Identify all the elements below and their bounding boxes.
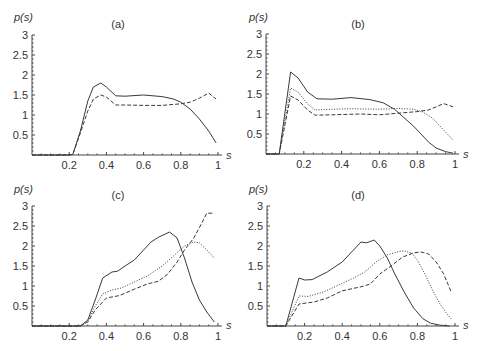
x-tick-label: 0.8: [173, 159, 188, 171]
y-axis-label: p(s): [248, 183, 268, 195]
y-tick-label: 3: [256, 28, 262, 40]
y-tick-label: 1: [22, 280, 28, 292]
curve-solid: [32, 83, 216, 155]
panel-c: p(s) (c) s 0.20.40.60.810.511.522.53: [13, 183, 232, 342]
panel-title: (d): [351, 189, 364, 201]
panel-title: (a): [111, 18, 124, 30]
y-tick-label: 2: [256, 68, 262, 80]
curve-solid: [267, 240, 449, 326]
y-tick-label: 1.5: [13, 89, 28, 101]
curve-dotted: [267, 251, 451, 326]
y-tick-label: 0.5: [247, 128, 262, 140]
curve-dotted: [32, 242, 214, 326]
x-tick-label: 0.2: [296, 158, 311, 170]
curve-dashed: [266, 96, 453, 154]
x-tick-label: 1: [452, 330, 458, 342]
x-axis-label: s: [226, 319, 232, 331]
x-tick-label: 0.8: [410, 330, 425, 342]
x-tick-label: 1: [215, 330, 221, 342]
x-tick-label: 0.2: [62, 330, 77, 342]
y-tick-label: 3: [22, 200, 28, 212]
y-axis-label: p(s): [13, 11, 33, 23]
x-axis-label: s: [226, 149, 232, 161]
x-tick-label: 0.8: [173, 330, 188, 342]
curve-dashed: [32, 93, 216, 155]
y-tick-label: 1.5: [13, 260, 28, 272]
y-tick-label: 1: [256, 108, 262, 120]
x-tick-label: 1: [452, 158, 458, 170]
panel-d: p(s) (d) s 0.20.40.60.810.511.522.53: [248, 183, 469, 342]
y-tick-label: 1.5: [248, 260, 263, 272]
curve-dashed: [267, 252, 451, 326]
y-tick-label: 0.5: [248, 300, 263, 312]
curve-dotted: [266, 88, 453, 154]
y-tick-label: 2: [22, 69, 28, 81]
x-tick-label: 0.2: [297, 330, 312, 342]
y-tick-label: 0.5: [13, 300, 28, 312]
curve-dashed: [32, 213, 214, 326]
panel-b: p(s) (b) s 0.20.40.60.810.511.522.53: [247, 11, 469, 170]
x-tick-label: 0.8: [410, 158, 425, 170]
y-tick-label: 2.5: [13, 49, 28, 61]
y-tick-label: 2: [22, 240, 28, 252]
y-tick-label: 1.5: [247, 88, 262, 100]
x-tick-label: 0.6: [136, 330, 151, 342]
y-tick-label: 2: [257, 240, 263, 252]
y-tick-label: 0.5: [13, 129, 28, 141]
y-tick-label: 2.5: [247, 48, 262, 60]
x-tick-label: 0.6: [372, 330, 387, 342]
x-tick-label: 0.4: [99, 159, 114, 171]
x-tick-label: 1: [215, 159, 221, 171]
panel-title: (b): [351, 18, 364, 30]
x-axis-label: s: [463, 319, 469, 331]
panel-title: (c): [112, 189, 125, 201]
y-tick-label: 1: [22, 109, 28, 121]
y-tick-label: 3: [22, 29, 28, 41]
y-tick-label: 1: [257, 280, 263, 292]
y-axis-label: p(s): [13, 183, 33, 195]
y-tick-label: 2.5: [248, 220, 263, 232]
panel-a: p(s) (a) s 0.20.40.60.810.511.522.53: [13, 11, 232, 171]
x-axis-label: s: [463, 148, 469, 160]
figure-four-panel-chart: p(s) (a) s 0.20.40.60.810.511.522.53 p(s…: [0, 0, 480, 351]
x-tick-label: 0.6: [372, 158, 387, 170]
y-tick-label: 2.5: [13, 220, 28, 232]
y-axis-label: p(s): [248, 11, 268, 23]
x-tick-label: 0.6: [136, 159, 151, 171]
x-tick-label: 0.4: [334, 158, 349, 170]
x-tick-label: 0.4: [335, 330, 350, 342]
y-tick-label: 3: [257, 200, 263, 212]
x-tick-label: 0.2: [62, 159, 77, 171]
x-tick-label: 0.4: [99, 330, 114, 342]
